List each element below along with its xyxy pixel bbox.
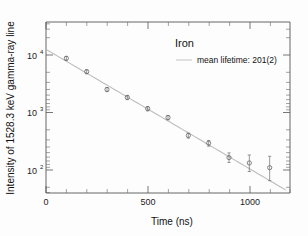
y-tick-label-1e4-exponent: 4 <box>40 49 44 55</box>
x-tick-label-0: 0 <box>43 197 48 207</box>
x-axis-title: Time (ns) <box>151 216 193 227</box>
decay-plot: 10 4 10 3 10 2 0 500 1000 Time (ns) Inte… <box>0 0 308 236</box>
x-tick-labels: 0 500 1000 <box>43 197 260 207</box>
data-series-iron <box>64 56 272 180</box>
fit-line <box>46 49 286 190</box>
data-point <box>85 70 89 74</box>
y-axis-ticks <box>46 24 290 193</box>
x-tick-label-1000: 1000 <box>240 197 260 207</box>
legend-entry-label: mean lifetime: 201(2) <box>197 55 277 65</box>
x-axis-ticks <box>46 22 290 193</box>
data-point <box>105 87 109 91</box>
y-tick-label-1e2-mantissa: 10 <box>27 166 37 176</box>
x-tick-label-500: 500 <box>140 197 155 207</box>
y-tick-labels: 10 4 10 3 10 2 <box>27 49 44 176</box>
legend-title: Iron <box>175 37 194 49</box>
data-point <box>64 56 68 60</box>
y-tick-label-1e3-mantissa: 10 <box>27 108 37 118</box>
data-point <box>166 115 170 119</box>
y-tick-label-1e4-mantissa: 10 <box>27 51 37 61</box>
figure-panel: 10 4 10 3 10 2 0 500 1000 Time (ns) Inte… <box>0 0 308 236</box>
plot-frame <box>46 22 290 193</box>
data-point <box>186 133 190 138</box>
y-tick-label-1e3-exponent: 3 <box>40 106 44 112</box>
data-point <box>268 156 272 180</box>
y-axis-title: Intensity of 1528.3 keV gamma-ray line <box>5 21 16 195</box>
legend: Iron mean lifetime: 201(2) <box>175 37 277 65</box>
y-tick-label-1e2-exponent: 2 <box>40 164 44 170</box>
